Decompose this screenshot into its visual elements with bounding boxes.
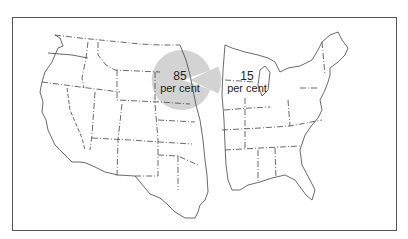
east-region [222,32,348,200]
west-percent-value: 85 [155,70,205,82]
east-percent-value: 15 [222,70,272,82]
west-slice-label: 85 per cent [155,70,205,94]
west-percent-unit: per cent [155,82,205,94]
east-percent-unit: per cent [222,82,272,94]
east-slice-label: 15 per cent [222,70,272,94]
us-map [0,0,408,239]
